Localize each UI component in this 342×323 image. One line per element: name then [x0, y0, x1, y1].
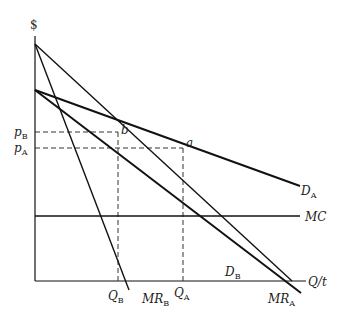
- curve-label-MRB: MRB: [141, 292, 169, 308]
- quantity-label-QB: QB: [108, 289, 124, 305]
- curve-label-MRA: MRA: [267, 292, 295, 308]
- quantity-label-QA: QA: [174, 286, 190, 302]
- point-label-b: b: [121, 123, 129, 137]
- point-label-a: a: [186, 136, 193, 150]
- price-label-pB: pB: [14, 125, 28, 141]
- price-label-pA: pA: [14, 141, 28, 157]
- mr-curve-B: [35, 44, 129, 290]
- curve-label-DB: DB: [224, 265, 241, 281]
- y-axis-label: $: [30, 18, 38, 32]
- mr-curve-A: [35, 90, 301, 293]
- x-axis-label: Q/t: [308, 275, 327, 289]
- demand-curve-B: [35, 44, 292, 281]
- curve-label-DA: DA: [300, 184, 317, 200]
- curve-label-MC: MC: [304, 210, 326, 224]
- diagram-canvas: $ Q/t pB pA QB QA b a DA MC DB MRB MRA: [0, 0, 342, 323]
- demand-curve-A: [35, 90, 300, 186]
